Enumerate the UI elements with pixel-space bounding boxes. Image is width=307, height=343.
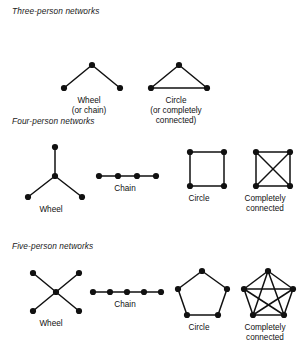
graph-node [117, 85, 123, 91]
graph-edge [244, 289, 284, 315]
figure-row-three-person: Wheel (or chain)Circle (or completely co… [0, 26, 307, 114]
section-three-person: Three-person networks Wheel (or chain)Ci… [0, 6, 307, 114]
graph-nodes [148, 62, 210, 91]
graph-node [51, 144, 57, 150]
graph-node [51, 173, 57, 179]
graph-node [148, 85, 154, 91]
graph-node [204, 85, 210, 91]
graph-nodes [61, 62, 123, 91]
graph-edges [178, 271, 227, 315]
figure-row-four-person: WheelChainCircleCompletely connected [0, 137, 307, 237]
figure-caption-four-chain: Chain [83, 184, 167, 194]
graph-five-complete [231, 262, 299, 321]
graph-node [281, 312, 287, 318]
graph-node [175, 286, 181, 292]
graph-nodes [187, 149, 227, 189]
graph-edge [179, 65, 207, 88]
graph-edge [64, 65, 92, 88]
graph-edge [244, 289, 253, 315]
graph-node [107, 289, 113, 295]
graph-edge [92, 65, 120, 88]
graph-node [95, 173, 101, 179]
graph-node [76, 270, 82, 276]
graph-edge [202, 271, 227, 289]
graph-edges [190, 152, 224, 186]
graph-node [241, 286, 247, 292]
graph-node [287, 149, 293, 155]
network-figure-five-complete: Completely connected [225, 262, 305, 343]
graph-edge [253, 289, 293, 315]
graph-four-chain [89, 137, 162, 182]
network-figure-three-wheel: Wheel (or chain) [47, 26, 131, 116]
graph-node [24, 194, 30, 200]
graph-five-wheel [17, 262, 85, 317]
graph-three-wheel [52, 26, 126, 94]
graph-five-circle [165, 262, 233, 321]
graph-node [253, 149, 259, 155]
graph-three-circle [139, 26, 213, 94]
network-figure-five-chain: Chain [83, 262, 167, 310]
graph-five-chain [83, 262, 167, 298]
graph-node [76, 308, 82, 314]
graph-edge [151, 65, 179, 88]
graph-node [89, 62, 95, 68]
section-five-person: Five-person networks WheelChainCircleCom… [0, 241, 307, 340]
graph-node [265, 268, 271, 274]
graph-node [290, 286, 296, 292]
graph-node [215, 312, 221, 318]
graph-node [253, 183, 259, 189]
graph-edges [28, 147, 82, 197]
graph-node [176, 62, 182, 68]
graph-node [53, 289, 59, 295]
graph-edges [256, 152, 290, 186]
graph-edge [284, 289, 293, 315]
graph-node [187, 149, 193, 155]
graph-node [199, 268, 205, 274]
graph-edge [56, 273, 79, 292]
graph-edges [151, 65, 207, 88]
network-figure-four-wheel: Wheel [9, 137, 93, 215]
section-title-four-person: Four-person networks [12, 116, 307, 126]
graph-edge [33, 273, 56, 292]
figure-caption-five-complete: Completely connected [225, 323, 305, 343]
graph-four-circle [168, 137, 230, 192]
figure-caption-five-wheel: Wheel [9, 319, 93, 329]
graph-node [114, 173, 120, 179]
graph-node [287, 183, 293, 189]
graph-node [78, 194, 84, 200]
graph-four-wheel [15, 137, 88, 203]
graph-node [61, 85, 67, 91]
graph-four-complete [234, 137, 296, 192]
graph-nodes [175, 268, 230, 318]
graph-edge [55, 176, 82, 197]
figure-row-five-person: WheelChainCircleCompletely connected [0, 262, 307, 340]
graph-node [187, 183, 193, 189]
graph-edges [244, 271, 293, 315]
graph-node [30, 308, 36, 314]
figure-caption-four-wheel: Wheel [9, 205, 93, 215]
network-figure-four-chain: Chain [83, 137, 167, 194]
graph-node [30, 270, 36, 276]
network-figure-four-complete: Completely connected [225, 137, 305, 214]
figure-caption-five-chain: Chain [83, 300, 167, 310]
graph-node [141, 289, 147, 295]
graph-node [90, 289, 96, 295]
figure-caption-three-wheel: Wheel (or chain) [47, 96, 131, 116]
section-four-person: Four-person networks WheelChainCircleCom… [0, 116, 307, 237]
network-figure-five-wheel: Wheel [9, 262, 93, 329]
graph-edge [56, 292, 79, 311]
figure-caption-four-complete: Completely connected [225, 194, 305, 214]
section-title-five-person: Five-person networks [12, 241, 307, 251]
network-figure-three-circle: Circle (or completely connected) [131, 26, 221, 127]
graph-node [133, 173, 139, 179]
graph-edge [253, 271, 268, 315]
graph-edges [64, 65, 120, 88]
graph-node [184, 312, 190, 318]
graph-edge [178, 271, 202, 289]
graph-edge [33, 292, 56, 311]
graph-edge [28, 176, 55, 197]
graph-edge [178, 289, 187, 315]
graph-node [124, 289, 130, 295]
section-title-three-person: Three-person networks [12, 6, 307, 16]
